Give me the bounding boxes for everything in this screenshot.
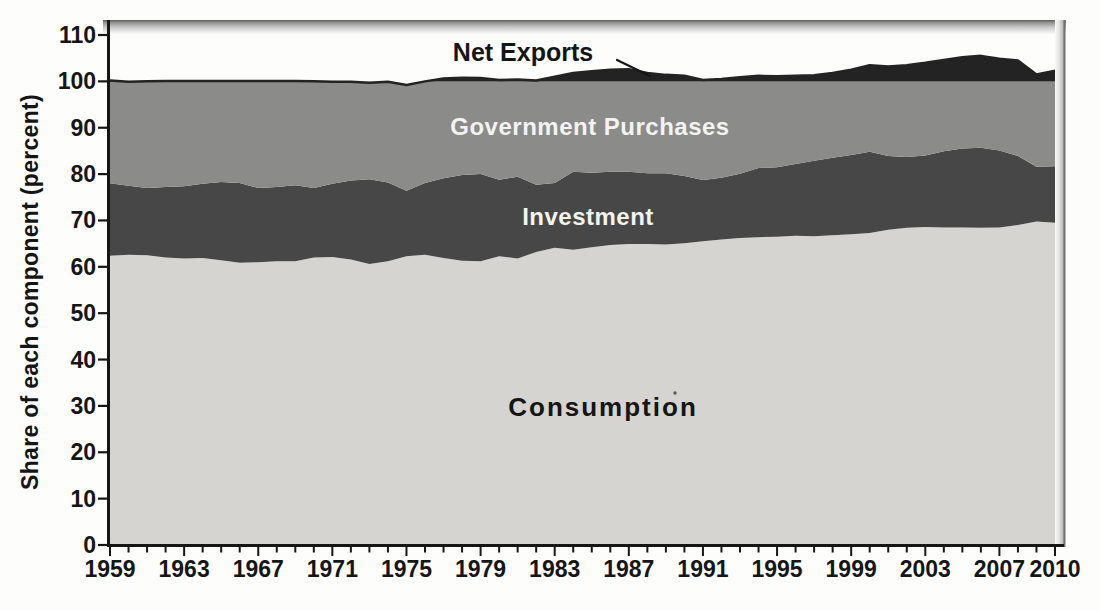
y-tick-label: 30 [70,393,96,419]
y-tick [98,219,109,221]
x-tick-label: 2010 [1029,556,1080,582]
x-tick [480,546,482,556]
right-bevel-outline [1064,20,1066,547]
y-tick [98,173,109,175]
x-tick [832,546,834,553]
x-tick [1017,546,1019,553]
x-tick [628,546,630,556]
x-tick-label: 1963 [159,556,210,582]
x-tick [887,546,889,553]
y-tick-label: 80 [70,161,96,187]
y-tick-label: 60 [70,254,96,280]
x-tick [683,546,685,553]
x-tick [461,546,463,553]
x-tick [276,546,278,553]
x-tick-label: 1983 [529,556,580,582]
y-tick-label: 10 [70,486,96,512]
x-tick [1054,546,1056,556]
x-tick [758,546,760,553]
y-tick [98,127,109,129]
x-tick-label: 1959 [84,556,135,582]
x-tick-label: 1979 [455,556,506,582]
x-tick [813,546,815,553]
consumption-label: Consumption [508,394,698,420]
x-tick [739,546,741,553]
x-tick-label: 1999 [826,556,877,582]
gdp-components-figure: 0102030405060708090100110195919631967197… [0,0,1100,611]
x-tick [961,546,963,553]
y-tick [98,34,109,36]
x-tick [517,546,519,553]
x-tick-label: 2003 [900,556,951,582]
consumption-area [110,221,1055,545]
x-tick [702,546,704,556]
y-tick [98,266,109,268]
x-tick [331,546,333,556]
x-tick [387,546,389,553]
x-tick [924,546,926,556]
x-tick-label: 1991 [677,556,728,582]
x-tick [591,546,593,553]
stacked-area-chart: 0102030405060708090100110195919631967197… [0,0,1100,611]
y-tick-label: 50 [70,300,96,326]
y-tick [98,358,109,360]
x-tick [1035,546,1037,553]
x-tick [109,546,111,556]
x-tick-label: 1967 [233,556,284,582]
y-tick [98,312,109,314]
x-tick [443,546,445,553]
x-tick [128,546,130,553]
x-tick [535,546,537,553]
x-tick [368,546,370,553]
x-tick [313,546,315,553]
x-tick-label: 1995 [751,556,802,582]
y-axis-line [107,20,110,547]
y-axis-title: Share of each component (percent) [19,94,42,490]
x-tick [980,546,982,553]
x-tick-label: 1987 [603,556,654,582]
x-tick [294,546,296,553]
y-tick [98,451,109,453]
x-tick [720,546,722,553]
y-tick [98,544,109,546]
x-tick [498,546,500,553]
right-bevel-edge [1055,20,1064,547]
x-tick [795,546,797,553]
x-tick [906,546,908,553]
x-tick [850,546,852,556]
y-tick [98,498,109,500]
x-tick [165,546,167,553]
x-tick [554,546,556,556]
investment-label: Investment [522,205,654,229]
x-tick [146,546,148,553]
x-tick-label: 1975 [381,556,432,582]
x-tick [424,546,426,553]
x-tick [609,546,611,553]
x-tick [239,546,241,553]
net-exports-label: Net Exports [453,40,593,65]
x-tick [869,546,871,553]
y-tick-label: 0 [83,532,96,558]
x-tick [998,546,1000,556]
x-tick-label: 2007 [974,556,1025,582]
x-tick [572,546,574,553]
x-tick [257,546,259,556]
x-axis-line [107,544,1064,547]
y-tick-label: 100 [58,68,96,94]
y-tick-label: 70 [70,207,96,233]
x-tick [350,546,352,553]
y-tick-label: 90 [70,115,96,141]
y-tick-label: 40 [70,347,96,373]
y-tick-label: 20 [70,439,96,465]
x-tick [776,546,778,556]
x-tick [646,546,648,553]
y-tick [98,80,109,82]
x-tick [665,546,667,553]
x-tick [405,546,407,556]
y-tick [98,405,109,407]
top-bevel-edge [103,20,1066,34]
x-tick-label: 1971 [307,556,358,582]
y-tick-label: 110 [59,22,96,48]
x-tick [202,546,204,553]
x-tick [183,546,185,556]
